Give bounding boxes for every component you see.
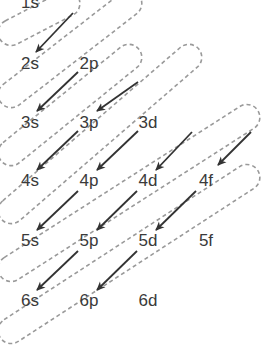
- group-5s-outline: [0, 100, 265, 287]
- orbital-label-5p: 5p: [80, 232, 99, 249]
- group-1s-outline: [0, 0, 84, 50]
- arrow-icon: [37, 191, 78, 230]
- orbital-label-3d: 3d: [139, 114, 158, 131]
- orbital-label-3p: 3p: [80, 114, 99, 131]
- orbital-label-6d: 6d: [139, 292, 158, 309]
- orbital-label-1s: 1s: [21, 0, 39, 11]
- orbital-label-3s: 3s: [21, 114, 39, 131]
- orbital-label-5d: 5d: [139, 232, 158, 249]
- orbital-label-5s: 5s: [21, 232, 39, 249]
- orbital-label-5f: 5f: [199, 232, 213, 249]
- arrow-icon: [36, 13, 73, 52]
- arrow-icon: [97, 82, 138, 111]
- orbital-label-6p: 6p: [80, 292, 99, 309]
- dashed-group-outlines: [0, 0, 265, 349]
- orbital-label-4s: 4s: [21, 172, 39, 189]
- aufbau-diagram: 1s2s2p3s3p3d4s4p4d4f5s5p5d5f6s6p6d: [0, 0, 266, 349]
- orbital-label-2s: 2s: [21, 55, 39, 72]
- orbital-label-2p: 2p: [80, 55, 99, 72]
- arrow-icon: [37, 72, 78, 111]
- diagram-canvas: [0, 0, 266, 349]
- arrow-icon: [156, 132, 192, 170]
- orbital-label-6s: 6s: [21, 292, 39, 309]
- arrow-icon: [97, 251, 137, 290]
- arrow-icon: [37, 131, 78, 170]
- orbital-label-4p: 4p: [80, 172, 99, 189]
- arrow-icon: [97, 191, 137, 230]
- orbital-label-4d: 4d: [139, 172, 158, 189]
- group-6s-outline: [0, 159, 265, 348]
- orbital-label-4f: 4f: [199, 172, 213, 189]
- arrow-icon: [156, 191, 196, 230]
